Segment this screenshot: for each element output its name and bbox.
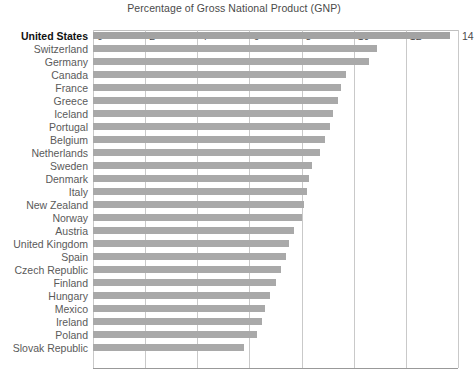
category-label-slovak-republic: Slovak Republic xyxy=(0,342,88,355)
axis-bottom-line xyxy=(93,368,458,369)
bar-row: Ireland xyxy=(0,316,468,329)
x-axis-tick-labels: 02468101214 xyxy=(93,14,473,30)
category-label-iceland: Iceland xyxy=(0,108,88,121)
bar-row: United States xyxy=(0,30,468,43)
chart-title: Percentage of Gross National Product (GN… xyxy=(0,2,468,14)
category-label-new-zealand: New Zealand xyxy=(0,199,88,212)
bar-row: Iceland xyxy=(0,108,468,121)
bar-row: United Kingdom xyxy=(0,238,468,251)
bar-row: Netherlands xyxy=(0,147,468,160)
bar-row: Germany xyxy=(0,56,468,69)
bar-row: Mexico xyxy=(0,303,468,316)
bar-belgium xyxy=(93,136,325,143)
bar-canada xyxy=(93,71,346,78)
bar-norway xyxy=(93,214,302,221)
bar-row: Slovak Republic xyxy=(0,342,468,355)
category-label-denmark: Denmark xyxy=(0,173,88,186)
bar-row: Hungary xyxy=(0,290,468,303)
bar-new-zealand xyxy=(93,201,304,208)
category-label-czech-republic: Czech Republic xyxy=(0,264,88,277)
category-label-belgium: Belgium xyxy=(0,134,88,147)
category-label-hungary: Hungary xyxy=(0,290,88,303)
bar-row: Austria xyxy=(0,225,468,238)
category-label-france: France xyxy=(0,82,88,95)
bar-iceland xyxy=(93,110,333,117)
bar-row: Sweden xyxy=(0,160,468,173)
bar-finland xyxy=(93,279,276,286)
bar-united-states xyxy=(93,32,450,39)
bar-italy xyxy=(93,188,307,195)
category-label-germany: Germany xyxy=(0,56,88,69)
category-label-norway: Norway xyxy=(0,212,88,225)
bar-row: Norway xyxy=(0,212,468,225)
bar-row: Spain xyxy=(0,251,468,264)
category-label-united-kingdom: United Kingdom xyxy=(0,238,88,251)
bar-row: Finland xyxy=(0,277,468,290)
bar-sweden xyxy=(93,162,312,169)
category-label-greece: Greece xyxy=(0,95,88,108)
bar-row: Denmark xyxy=(0,173,468,186)
bar-row: New Zealand xyxy=(0,199,468,212)
bar-row: Portugal xyxy=(0,121,468,134)
bar-united-kingdom xyxy=(93,240,289,247)
bar-czech-republic xyxy=(93,266,281,273)
bar-row: Italy xyxy=(0,186,468,199)
bar-switzerland xyxy=(93,45,377,52)
category-label-netherlands: Netherlands xyxy=(0,147,88,160)
bar-row: Belgium xyxy=(0,134,468,147)
bar-row: Switzerland xyxy=(0,43,468,56)
category-label-italy: Italy xyxy=(0,186,88,199)
bar-mexico xyxy=(93,305,265,312)
bar-row: Greece xyxy=(0,95,468,108)
category-label-finland: Finland xyxy=(0,277,88,290)
bar-ireland xyxy=(93,318,262,325)
bar-netherlands xyxy=(93,149,320,156)
bar-row: France xyxy=(0,82,468,95)
bar-denmark xyxy=(93,175,309,182)
bar-france xyxy=(93,84,341,91)
bar-slovak-republic xyxy=(93,344,244,351)
category-label-poland: Poland xyxy=(0,329,88,342)
bar-row: Czech Republic xyxy=(0,264,468,277)
category-label-mexico: Mexico xyxy=(0,303,88,316)
category-label-switzerland: Switzerland xyxy=(0,43,88,56)
category-label-spain: Spain xyxy=(0,251,88,264)
bar-row: Poland xyxy=(0,329,468,342)
bar-austria xyxy=(93,227,294,234)
bar-rows: United StatesSwitzerlandGermanyCanadaFra… xyxy=(0,30,468,368)
category-label-austria: Austria xyxy=(0,225,88,238)
category-label-canada: Canada xyxy=(0,69,88,82)
bar-germany xyxy=(93,58,369,65)
bar-hungary xyxy=(93,292,270,299)
category-label-portugal: Portugal xyxy=(0,121,88,134)
category-label-united-states: United States xyxy=(0,30,88,43)
category-label-ireland: Ireland xyxy=(0,316,88,329)
bar-spain xyxy=(93,253,286,260)
bar-row: Canada xyxy=(0,69,468,82)
bar-portugal xyxy=(93,123,330,130)
bar-greece xyxy=(93,97,338,104)
category-label-sweden: Sweden xyxy=(0,160,88,173)
bar-poland xyxy=(93,331,257,338)
